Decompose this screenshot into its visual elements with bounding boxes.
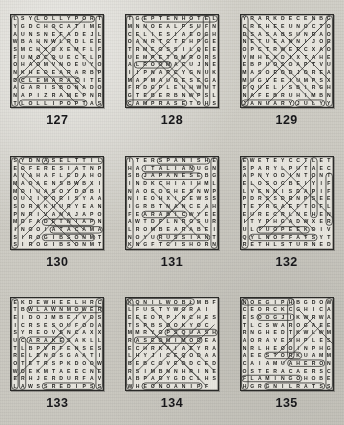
- grid-letter: D: [73, 172, 81, 180]
- grid-letter: P: [34, 344, 42, 352]
- word-search-grid[interactable]: EKDEWHEELHRCTBWLAWNMOWEREIDOJMBEIVDSICRS…: [10, 297, 104, 391]
- grid-letter: T: [80, 157, 88, 165]
- grid-letter: N: [27, 30, 35, 38]
- grid-letter: E: [50, 30, 58, 38]
- grid-letter: R: [27, 210, 35, 218]
- grid-letter: P: [96, 53, 104, 61]
- grid-letter: E: [88, 344, 96, 352]
- grid-letter: L: [248, 321, 256, 329]
- grid-letter: E: [271, 76, 279, 84]
- puzzle-cell: EWETEYCCTLETSPARYLPUTAECAPNYOOINTONTELOS…: [229, 142, 344, 284]
- grid-letter: E: [80, 203, 88, 211]
- grid-letter: H: [34, 46, 42, 54]
- grid-letter: N: [34, 157, 42, 165]
- grid-letter: U: [203, 69, 211, 77]
- grid-letter: H: [325, 84, 333, 92]
- grid-letter: E: [317, 164, 325, 172]
- grid-letter: H: [210, 30, 218, 38]
- grid-letter: C: [241, 23, 249, 31]
- grid-letter: Q: [195, 46, 203, 54]
- word-search-grid[interactable]: EWETEYCCTLETSPARYLPUTAECAPNYOOINTONTELOS…: [240, 156, 334, 250]
- grid-letter: K: [294, 314, 302, 322]
- grid-letter: N: [164, 367, 172, 375]
- grid-letter: B: [279, 30, 287, 38]
- grid-letter: I: [203, 306, 211, 314]
- grid-letter: L: [88, 337, 96, 345]
- grid-letter: E: [141, 383, 149, 391]
- word-search-grid[interactable]: YRARKDECENBGCREHEEUNOCTODSASABSUNDAONETU…: [240, 14, 334, 108]
- grid-letter: C: [302, 46, 310, 54]
- word-search-grid[interactable]: SYDNASELTTILEOFERESIATNPAVAHAFLEDAHOMAOA…: [10, 156, 104, 250]
- grid-letter: C: [256, 321, 264, 329]
- grid-letter: F: [287, 233, 295, 241]
- word-search-grid[interactable]: LSYLOLLYPORTYGDCHOCATIMEAUNSNEFADEJLWBAH…: [10, 14, 104, 108]
- grid-letter: L: [241, 187, 249, 195]
- word-search-grid[interactable]: ITERSPANISHEHAITALIANUGNSBJAPANESEBGINDK…: [125, 156, 219, 250]
- word-search-grid[interactable]: KQNILWOBLMBFLFUSTYWORAI EEEOPPINCHESTSPB…: [125, 297, 219, 391]
- grid-letter: A: [126, 375, 134, 383]
- grid-letter: W: [164, 298, 172, 306]
- grid-letter: K: [210, 69, 218, 77]
- grid-letter: D: [73, 360, 81, 368]
- grid-letter: L: [65, 157, 73, 165]
- grid-letter: C: [317, 306, 325, 314]
- grid-letter: S: [34, 383, 42, 391]
- grid-letter: Q: [50, 53, 58, 61]
- grid-letter: B: [195, 226, 203, 234]
- grid-letter: C: [19, 321, 27, 329]
- grid-letter: R: [310, 84, 318, 92]
- grid-letter: C: [164, 241, 172, 249]
- puzzle-number: 127: [46, 113, 68, 127]
- grid-letter: A: [27, 337, 35, 345]
- grid-letter: G: [279, 218, 287, 226]
- grid-letter: E: [279, 337, 287, 345]
- grid-letter: E: [65, 367, 73, 375]
- grid-letter: K: [80, 337, 88, 345]
- grid-letter: Y: [80, 195, 88, 203]
- grid-letter: I: [187, 383, 195, 391]
- word-search-grid[interactable]: NOEGIPHBGDOWCEORCKCGHICAESOOGJIKWRWATLCS…: [240, 297, 334, 391]
- grid-letter: T: [19, 360, 27, 368]
- grid-letter: X: [310, 218, 318, 226]
- grid-letter: F: [203, 23, 211, 31]
- grid-letter: H: [317, 53, 325, 61]
- grid-letter: O: [271, 61, 279, 69]
- grid-letter: S: [134, 321, 142, 329]
- grid-letter: R: [210, 218, 218, 226]
- grid-letter: I: [302, 180, 310, 188]
- grid-letter: E: [264, 84, 272, 92]
- grid-letter: A: [294, 61, 302, 69]
- grid-letter: I: [50, 99, 58, 107]
- grid-letter: O: [195, 53, 203, 61]
- grid-letter: O: [157, 337, 165, 345]
- grid-letter: S: [317, 76, 325, 84]
- grid-letter: E: [180, 76, 188, 84]
- grid-letter: O: [73, 241, 81, 249]
- grid-letter: O: [241, 367, 249, 375]
- grid-letter: C: [73, 329, 81, 337]
- grid-letter: E: [203, 15, 211, 23]
- grid-letter: R: [19, 375, 27, 383]
- grid-letter: B: [317, 92, 325, 100]
- grid-letter: U: [57, 53, 65, 61]
- grid-letter: R: [264, 15, 272, 23]
- grid-letter: I: [172, 210, 180, 218]
- grid-letter: N: [172, 218, 180, 226]
- word-search-grid[interactable]: TGEPTENHOTELMNNOEALPSUFNCELIESIAEOGHOANR…: [125, 14, 219, 108]
- grid-letter: A: [96, 195, 104, 203]
- grid-letter: Y: [317, 99, 325, 107]
- grid-letter: S: [164, 46, 172, 54]
- grid-letter: H: [34, 172, 42, 180]
- letter-grid: EWETEYCCTLETSPARYLPUTAECAPNYOOINTONTELOS…: [241, 157, 333, 249]
- grid-letter: M: [42, 61, 50, 69]
- grid-letter: J: [42, 314, 50, 322]
- grid-letter: V: [325, 226, 333, 234]
- grid-letter: N: [11, 92, 19, 100]
- grid-letter: P: [157, 172, 165, 180]
- grid-letter: L: [256, 344, 264, 352]
- grid-letter: L: [126, 306, 134, 314]
- grid-letter: I: [172, 164, 180, 172]
- grid-letter: A: [164, 99, 172, 107]
- grid-letter: C: [126, 99, 134, 107]
- grid-letter: E: [294, 226, 302, 234]
